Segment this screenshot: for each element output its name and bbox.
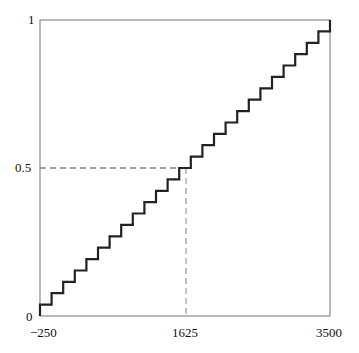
x-tick-minus-250: −250 (30, 326, 57, 340)
x-tick-3500: 3500 (316, 326, 342, 340)
y-tick-0-5: 0.5 (15, 161, 31, 175)
plot-area (0, 0, 359, 353)
y-tick-1: 1 (28, 13, 35, 27)
x-tick-1625: 1625 (172, 326, 198, 340)
chart: 1 0.5 0 −250 1625 3500 (0, 0, 359, 353)
y-tick-0: 0 (26, 310, 33, 324)
